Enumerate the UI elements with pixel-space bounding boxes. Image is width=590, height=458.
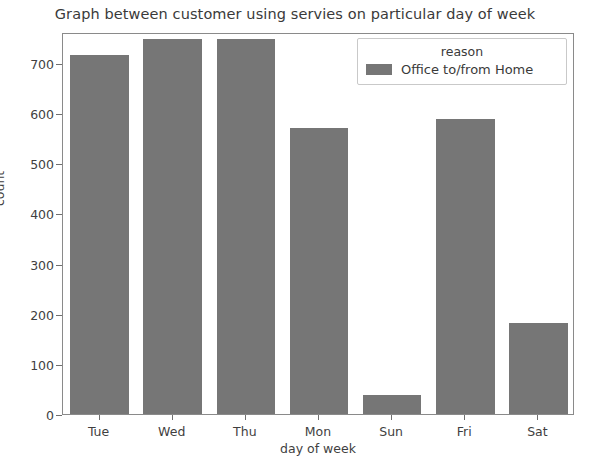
x-tick-label-wed: Wed [158,424,185,439]
legend: reason Office to/from Home [357,38,567,85]
x-tick-mark [318,415,319,420]
bar-sun [363,395,422,414]
bars-layer [63,34,573,414]
x-tick-label-fri: Fri [457,424,472,439]
legend-item: Office to/from Home [366,62,558,77]
x-tick-label-sun: Sun [379,424,403,439]
y-tick-label: 0 [6,408,54,423]
bar-wed [143,39,202,414]
x-tick-mark [391,415,392,420]
bar-tue [70,55,129,414]
y-tick-label: 700 [6,57,54,72]
bar-thu [217,39,276,414]
bar-chart-figure: Graph between customer using servies on … [0,0,590,458]
x-tick-mark [99,415,100,420]
x-tick-mark [537,415,538,420]
x-tick-mark [464,415,465,420]
chart-title: Graph between customer using servies on … [0,6,590,22]
bar-sat [509,323,568,414]
bar-mon [290,128,349,414]
y-tick-label: 400 [6,207,54,222]
legend-swatch-icon [366,64,392,75]
x-tick-label-mon: Mon [305,424,331,439]
legend-title: reason [366,44,558,59]
y-tick-label: 200 [6,307,54,322]
x-tick-label-sat: Sat [527,424,548,439]
x-tick-label-thu: Thu [233,424,256,439]
y-axis-label: count [0,171,7,206]
plot-area [62,33,574,415]
x-tick-mark [245,415,246,420]
y-tick-label: 600 [6,107,54,122]
y-tick-label: 300 [6,257,54,272]
x-tick-label-tue: Tue [88,424,109,439]
y-tick-label: 100 [6,357,54,372]
y-tick-mark [56,415,62,416]
x-axis-label: day of week [62,441,574,456]
x-tick-mark [172,415,173,420]
legend-item-label: Office to/from Home [401,62,533,77]
y-tick-label: 500 [6,157,54,172]
bar-fri [436,119,495,414]
